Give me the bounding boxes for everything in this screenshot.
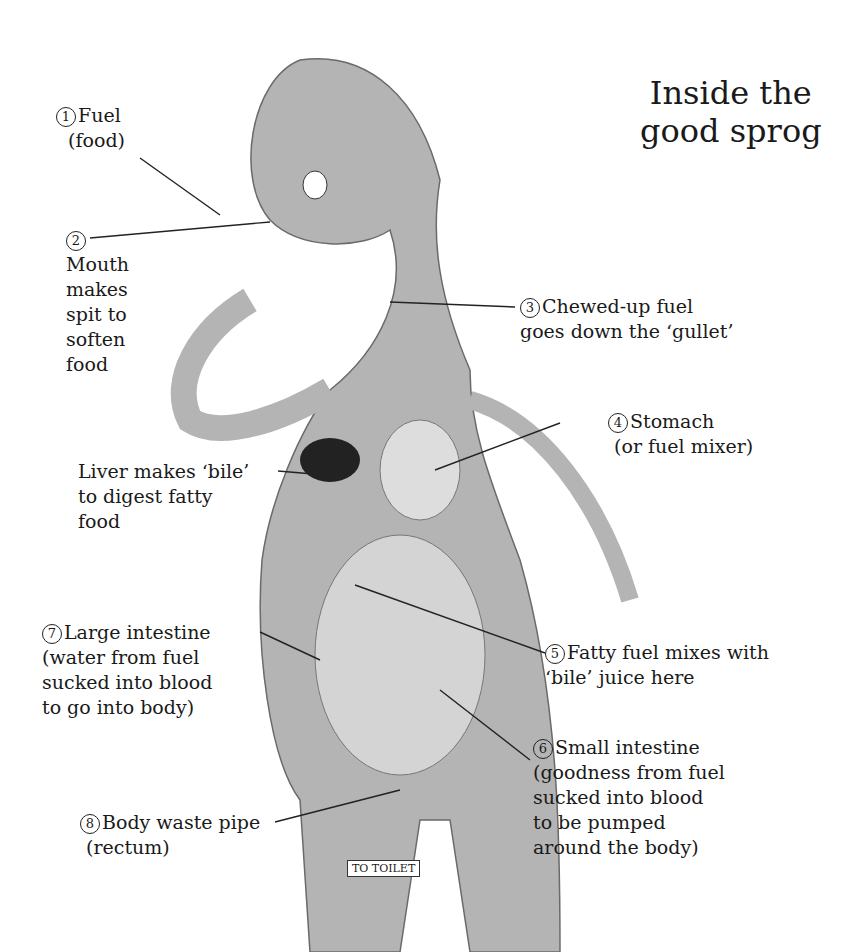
- label-text: (water from fuel: [42, 646, 199, 668]
- number-badge: 6: [533, 739, 553, 759]
- label-text: sucked into blood: [533, 786, 703, 808]
- label-text: Fatty fuel mixes with: [567, 641, 769, 663]
- label-text: to go into body): [42, 696, 194, 718]
- digestive-diagram: Inside the good sprog 1Fuel (food) 2Mout…: [0, 0, 847, 952]
- label-stomach: 4Stomach (or fuel mixer): [608, 409, 753, 459]
- label-text: makes: [66, 278, 128, 300]
- label-text: (food): [68, 129, 125, 151]
- label-text: around the body): [533, 836, 699, 858]
- label-text: Fuel: [78, 104, 121, 126]
- label-mouth: 2Mouthmakesspit tosoftenfood: [66, 227, 129, 377]
- number-badge: 1: [56, 107, 76, 127]
- label-small-intestine: 6Small intestine(goodness from fuelsucke…: [533, 735, 725, 860]
- label-text: Mouth: [66, 253, 129, 275]
- label-rectum: 8Body waste pipe (rectum): [80, 810, 260, 860]
- to-toilet-sign: TO TOILET: [347, 860, 420, 877]
- label-text: food: [66, 353, 108, 375]
- label-large-intestine: 7Large intestine(water from fuelsucked i…: [42, 620, 212, 720]
- label-text: goes down the ‘gullet’: [520, 320, 733, 342]
- label-text: to digest fatty: [78, 485, 213, 507]
- label-bile-mix: 5Fatty fuel mixes with‘bile’ juice here: [545, 640, 769, 690]
- label-text: (or fuel mixer): [614, 435, 753, 457]
- label-gullet: 3Chewed-up fuelgoes down the ‘gullet’: [520, 294, 733, 344]
- label-text: Liver makes ‘bile’: [78, 460, 249, 482]
- number-badge: 8: [80, 814, 100, 834]
- label-text: ‘bile’ juice here: [545, 666, 695, 688]
- label-text: food: [78, 510, 120, 532]
- number-badge: 2: [66, 231, 86, 251]
- label-text: Large intestine: [64, 621, 211, 643]
- label-text: Small intestine: [555, 736, 700, 758]
- number-badge: 3: [520, 298, 540, 318]
- label-text: spit to: [66, 303, 127, 325]
- number-badge: 5: [545, 644, 565, 664]
- label-text: soften: [66, 328, 125, 350]
- label-text: (rectum): [86, 836, 170, 858]
- number-badge: 4: [608, 413, 628, 433]
- title-line: good sprog: [640, 112, 822, 150]
- label-text: Body waste pipe: [102, 811, 260, 833]
- diagram-title: Inside the good sprog: [640, 74, 822, 150]
- label-text: (goodness from fuel: [533, 761, 725, 783]
- label-fuel: 1Fuel (food): [56, 103, 125, 153]
- label-text: sucked into blood: [42, 671, 212, 693]
- label-text: to be pumped: [533, 811, 666, 833]
- title-line: Inside the: [640, 74, 822, 112]
- label-text: Chewed-up fuel: [542, 295, 693, 317]
- label-text: Stomach: [630, 410, 714, 432]
- label-liver: Liver makes ‘bile’to digest fattyfood: [78, 459, 249, 534]
- number-badge: 7: [42, 624, 62, 644]
